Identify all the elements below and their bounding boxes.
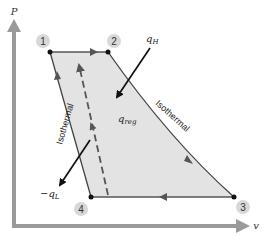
v-axis-label: v <box>253 220 259 231</box>
pv-diagram: 1 2 3 4 qH qreg −qL Isothermal Isotherma… <box>0 0 264 236</box>
p-axis-arrowhead-icon <box>7 19 21 32</box>
p-axis-label: P <box>10 6 18 17</box>
svg-text:1: 1 <box>40 36 46 47</box>
v-axis-arrowhead-icon <box>236 219 250 233</box>
state-4-badge: 4 <box>74 202 88 216</box>
state-dot-1 <box>48 50 53 55</box>
state-2-badge: 2 <box>107 34 121 48</box>
state-1-badge: 1 <box>36 34 50 48</box>
state-dot-4 <box>89 195 94 200</box>
state-dot-3 <box>232 195 237 200</box>
state-3-badge: 3 <box>236 200 250 214</box>
state-dot-2 <box>106 50 111 55</box>
cycle-area <box>50 52 234 197</box>
svg-text:2: 2 <box>111 36 117 47</box>
q-h-label: qH <box>146 33 159 46</box>
q-l-label: −qL <box>40 188 60 201</box>
svg-text:3: 3 <box>240 202 246 213</box>
svg-text:4: 4 <box>78 204 84 215</box>
